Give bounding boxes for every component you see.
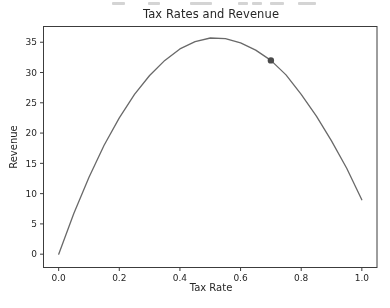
y-tick-label: 20	[26, 128, 38, 138]
x-tick-label: 1.0	[355, 273, 370, 283]
y-tick-label: 35	[26, 37, 37, 47]
y-tick-label: 10	[26, 189, 38, 199]
y-tick-label: 0	[31, 249, 37, 259]
y-axis-label: Revenue	[8, 125, 19, 169]
x-tick-label: 0.6	[233, 273, 248, 283]
axes-frame	[44, 27, 378, 268]
x-tick-label: 0.8	[294, 273, 309, 283]
x-tick-label: 0.0	[51, 273, 66, 283]
y-tick-label: 15	[26, 159, 37, 169]
y-tick-label: 30	[26, 68, 38, 78]
y-tick-label: 25	[26, 98, 37, 108]
current-rate-marker	[268, 57, 274, 63]
x-tick-label: 0.2	[112, 273, 126, 283]
x-tick-label: 0.4	[173, 273, 188, 283]
x-axis-label: Tax Rate	[44, 282, 378, 293]
y-tick-label: 5	[31, 219, 37, 229]
revenue-curve	[59, 38, 362, 254]
laffer-curve-figure: Tax Rates and Revenue 0.00.20.40.60.81.0…	[0, 0, 390, 308]
plot-area: 0.00.20.40.60.81.005101520253035	[0, 0, 390, 308]
